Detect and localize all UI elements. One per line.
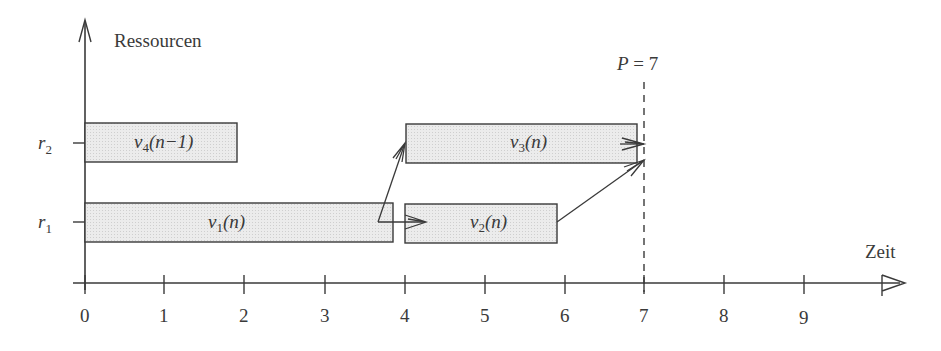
task-label-v1: v1(n)	[208, 211, 245, 235]
task-v3: v3(n)	[406, 124, 637, 163]
x-ticks	[85, 275, 804, 294]
task-v1: v1(n)	[85, 203, 393, 242]
period-marker: P = 7	[616, 53, 658, 292]
x-axis-label: Zeit	[865, 241, 896, 262]
y-tick-label-r2: r2	[38, 132, 52, 157]
x-tick-label: 3	[320, 305, 330, 326]
x-tick-label: 7	[639, 305, 649, 326]
x-tick-label: 1	[159, 305, 169, 326]
x-axis-arrow-icon	[882, 275, 905, 296]
task-label-v3: v3(n)	[510, 131, 547, 155]
period-label: P = 7	[616, 53, 658, 74]
y-tick-label-r1: r1	[38, 211, 52, 236]
schedule-diagram: Ressourcen r2 r1 Zeit 0 1 2 3 4 5 6 7 8	[0, 0, 941, 351]
x-tick-label: 8	[719, 305, 729, 326]
x-tick-label: 2	[239, 305, 249, 326]
x-tick-label: 9	[799, 307, 809, 328]
task-v2: v2(n)	[405, 204, 557, 243]
x-tick-labels: 0 1 2 3 4 5 6 7 8 9	[80, 305, 809, 328]
task-label-v2: v2(n)	[470, 211, 507, 235]
x-tick-label: 5	[480, 305, 490, 326]
x-tick-label: 4	[400, 305, 410, 326]
task-v4: v4(n−1)	[85, 123, 237, 162]
x-tick-label: 0	[80, 305, 90, 326]
y-axis-label: Ressourcen	[114, 30, 202, 51]
x-tick-label: 6	[560, 305, 570, 326]
arrow-v2-to-end	[557, 160, 644, 222]
x-axis: Zeit	[73, 241, 905, 296]
